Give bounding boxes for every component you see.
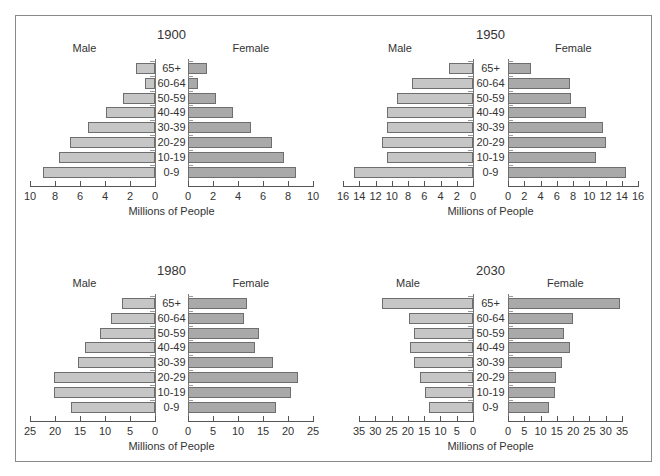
x-tick <box>557 416 558 421</box>
age-group-label: 60-64 <box>471 78 511 89</box>
female-x-axis <box>508 186 639 187</box>
row-tick <box>508 150 513 151</box>
x-tick <box>473 181 474 186</box>
row-tick <box>508 61 513 62</box>
female-bar-10-19 <box>188 152 284 163</box>
x-tick <box>313 416 314 421</box>
x-tick <box>508 181 509 186</box>
x-tick <box>55 416 56 421</box>
x-tick <box>408 416 409 421</box>
x-tick <box>573 416 574 421</box>
age-group-label: 65+ <box>152 298 192 309</box>
row-tick <box>468 61 473 62</box>
male-bar-40-49 <box>387 107 473 118</box>
age-group-label: 40-49 <box>471 107 511 118</box>
female-bar-65+ <box>188 298 247 309</box>
female-bar-0-9 <box>188 402 276 413</box>
male-bar-50-59 <box>100 328 155 339</box>
row-tick <box>468 326 473 327</box>
row-tick <box>188 120 193 121</box>
row-tick <box>468 165 473 166</box>
row-tick <box>150 400 155 401</box>
female-x-axis <box>188 421 314 422</box>
row-tick <box>508 326 513 327</box>
male-bar-10-19 <box>54 387 156 398</box>
female-bar-40-49 <box>188 342 255 353</box>
age-group-label: 20-29 <box>152 137 192 148</box>
row-tick <box>468 370 473 371</box>
female-bar-30-39 <box>508 122 603 133</box>
male-bar-20-29 <box>54 372 156 383</box>
female-bar-20-29 <box>188 372 298 383</box>
row-tick <box>150 76 155 77</box>
x-tick <box>606 416 607 421</box>
age-group-label: 10-19 <box>152 387 192 398</box>
x-tick <box>457 416 458 421</box>
x-tick <box>375 416 376 421</box>
x-tick <box>288 416 289 421</box>
male-bar-65+ <box>122 298 156 309</box>
age-group-label: 30-39 <box>152 122 192 133</box>
female-tick-label: 25 <box>301 425 325 437</box>
row-tick <box>150 120 155 121</box>
female-tick-label: 4 <box>226 190 250 202</box>
male-bar-0-9 <box>354 167 473 178</box>
age-group-label: 30-39 <box>471 122 511 133</box>
x-tick <box>359 181 360 186</box>
male-tick-label: 4 <box>93 190 117 202</box>
male-tick-label: 20 <box>43 425 67 437</box>
female-bar-40-49 <box>508 107 586 118</box>
x-tick <box>541 416 542 421</box>
panel-title: 1980 <box>142 263 202 278</box>
x-axis-title: Millions of People <box>102 205 242 217</box>
row-tick <box>468 296 473 297</box>
x-tick <box>80 416 81 421</box>
age-group-label: 40-49 <box>471 342 511 353</box>
male-bar-65+ <box>449 63 473 74</box>
x-tick <box>130 416 131 421</box>
x-tick <box>557 181 558 186</box>
x-tick <box>441 181 442 186</box>
x-tick <box>622 181 623 186</box>
female-tick-label: 16 <box>626 190 650 202</box>
age-group-label: 10-19 <box>471 152 511 163</box>
female-tick-label: 15 <box>251 425 275 437</box>
female-tick-label: 10 <box>226 425 250 437</box>
row-tick <box>188 61 193 62</box>
age-group-label: 20-29 <box>152 372 192 383</box>
male-bar-40-49 <box>85 342 156 353</box>
row-tick <box>508 340 513 341</box>
row-tick <box>468 311 473 312</box>
row-tick <box>508 120 513 121</box>
x-tick <box>392 181 393 186</box>
row-tick <box>468 340 473 341</box>
row-tick <box>188 311 193 312</box>
row-tick <box>508 311 513 312</box>
male-x-axis <box>30 186 156 187</box>
row-tick <box>188 385 193 386</box>
x-tick <box>524 416 525 421</box>
male-tick-label: 10 <box>18 190 42 202</box>
female-tick-label: 20 <box>276 425 300 437</box>
male-bar-10-19 <box>59 152 155 163</box>
row-tick <box>188 150 193 151</box>
female-bar-10-19 <box>508 387 555 398</box>
age-group-label: 50-59 <box>152 328 192 339</box>
female-bar-50-59 <box>188 328 259 339</box>
female-bar-0-9 <box>188 167 296 178</box>
row-tick <box>468 150 473 151</box>
row-tick <box>150 311 155 312</box>
female-bar-40-49 <box>188 107 233 118</box>
row-tick <box>150 370 155 371</box>
female-bar-20-29 <box>508 137 606 148</box>
male-tick-label: 15 <box>68 425 92 437</box>
male-bar-0-9 <box>429 402 473 413</box>
female-bar-50-59 <box>508 328 564 339</box>
x-tick <box>30 416 31 421</box>
female-bar-0-9 <box>508 402 549 413</box>
male-tick-label: 25 <box>18 425 42 437</box>
age-group-label: 50-59 <box>152 93 192 104</box>
female-bar-30-39 <box>188 122 251 133</box>
female-tick-label: 5 <box>201 425 225 437</box>
male-tick-label: 8 <box>43 190 67 202</box>
